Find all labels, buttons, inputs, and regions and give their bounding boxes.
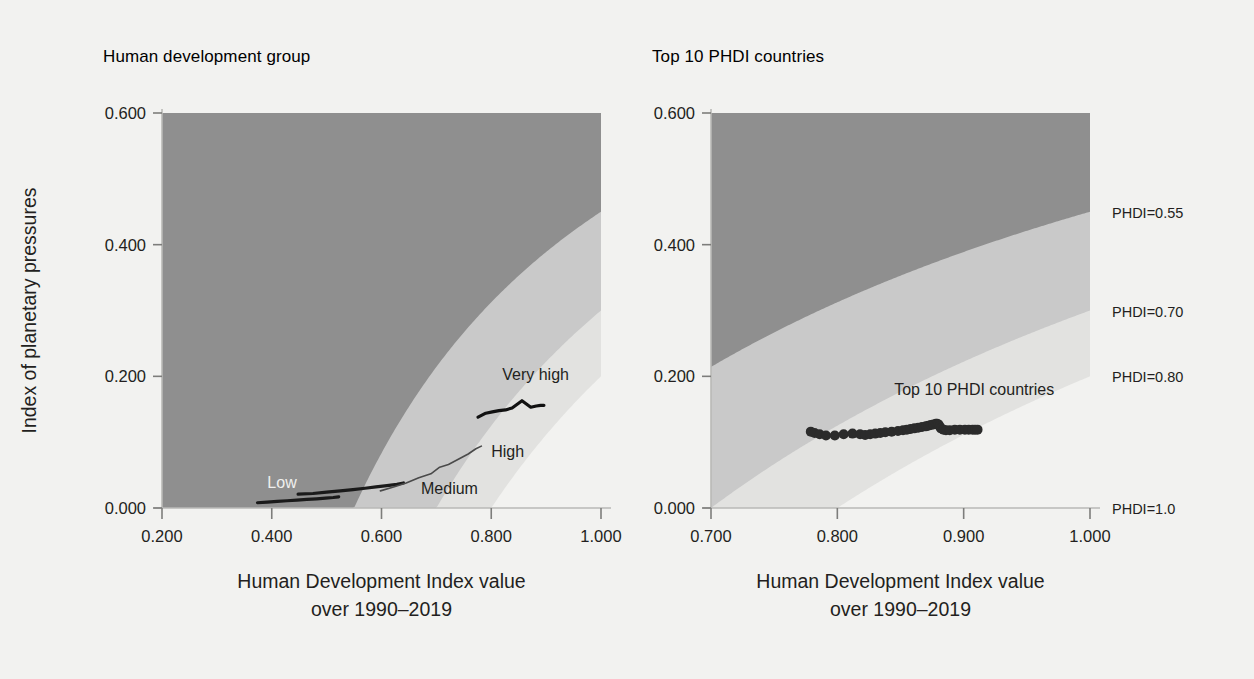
plot-area (711, 113, 1090, 508)
y-tick-label: 0.400 (654, 236, 695, 254)
phdi-level-label: PHDI=1.0 (1112, 501, 1175, 517)
y-tick-label: 0.000 (105, 499, 146, 517)
chart-svg: 0.0000.2000.4000.6000.2000.4000.6000.800… (0, 0, 1254, 679)
y-tick-label: 0.200 (654, 367, 695, 385)
y-axis-title: Index of planetary pressures (18, 187, 40, 433)
x-tick-label: 0.800 (471, 527, 512, 545)
x-axis-title-line2: over 1990–2019 (830, 598, 971, 620)
panel-title: Top 10 PHDI countries (652, 47, 824, 66)
figure-container: 0.0000.2000.4000.6000.2000.4000.6000.800… (0, 0, 1254, 679)
data-point (821, 431, 831, 441)
x-axis-title-line2: over 1990–2019 (311, 598, 452, 620)
y-tick-label: 0.600 (105, 104, 146, 122)
x-axis-title-line1: Human Development Index value (237, 570, 525, 592)
data-point (830, 431, 840, 441)
y-tick-label: 0.000 (654, 499, 695, 517)
phdi-level-label: PHDI=0.80 (1112, 369, 1183, 385)
x-axis-title-line1: Human Development Index value (756, 570, 1044, 592)
x-tick-label: 1.000 (580, 527, 621, 545)
x-tick-label: 0.400 (251, 527, 292, 545)
x-tick-label: 0.600 (361, 527, 402, 545)
data-point (973, 425, 983, 435)
x-tick-label: 0.200 (141, 527, 182, 545)
series-label-high: High (491, 443, 524, 460)
data-point (839, 429, 849, 439)
series-label-very-high: Very high (502, 366, 569, 383)
y-tick-label: 0.200 (105, 367, 146, 385)
panel-title: Human development group (103, 47, 310, 66)
plot-area (162, 113, 601, 508)
y-tick-label: 0.600 (654, 104, 695, 122)
series-label-top-10-phdi-countries: Top 10 PHDI countries (894, 381, 1054, 398)
x-tick-label: 0.900 (943, 527, 984, 545)
phdi-level-label: PHDI=0.70 (1112, 304, 1183, 320)
x-tick-label: 0.800 (817, 527, 858, 545)
y-tick-label: 0.400 (105, 236, 146, 254)
series-label-medium: Medium (421, 480, 478, 497)
x-tick-label: 0.700 (690, 527, 731, 545)
series-label-low: Low (267, 474, 297, 491)
x-tick-label: 1.000 (1069, 527, 1110, 545)
phdi-level-label: PHDI=0.55 (1112, 205, 1183, 221)
